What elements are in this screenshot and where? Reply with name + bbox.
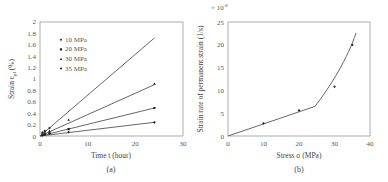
y-axis-a: 0 0.2 0.4 0.6 0.8 1 1.2 1.4 1.6 1.8 2 [27, 18, 36, 140]
svg-text:1: 1 [33, 75, 37, 83]
x-axis-b: 0 10 20 30 40 [226, 140, 374, 148]
y-axis-label-a: Strain εpl (%) [7, 59, 17, 99]
svg-text:0: 0 [38, 140, 42, 148]
svg-text:10: 10 [84, 140, 92, 148]
fit-line-10mpa [40, 122, 154, 136]
svg-text:40: 40 [367, 140, 375, 148]
svg-text:0.6: 0.6 [27, 98, 36, 106]
legend-item-20mpa: 20 MPa [65, 45, 88, 53]
legend-circle-icon [60, 67, 62, 69]
fit-line-35mpa [40, 38, 154, 136]
legend-square-icon [60, 48, 62, 50]
svg-text:30: 30 [180, 140, 188, 148]
y-axis-label-b: Strain rate of permanent strain (1/s) [196, 25, 205, 132]
legend-a: 10 MPa 20 MPa 30 MPa 35 MPa [60, 36, 88, 73]
svg-text:20: 20 [296, 140, 304, 148]
x-axis-a: 0 10 20 30 [38, 140, 187, 148]
svg-text:10: 10 [260, 140, 268, 148]
x-axis-label-b: Stress σ (MPa) [277, 151, 322, 160]
svg-text:0: 0 [33, 133, 37, 141]
svg-text:0.8: 0.8 [27, 87, 36, 95]
svg-text:5: 5 [221, 110, 225, 118]
legend-item-10mpa: 10 MPa [65, 36, 88, 44]
series-30mpa-markers [41, 82, 156, 133]
svg-text:0: 0 [226, 140, 230, 148]
fit-line-20mpa [40, 108, 154, 136]
y-multiplier: × 10-8 [211, 3, 228, 12]
svg-text:1.6: 1.6 [27, 41, 36, 49]
svg-text:10: 10 [217, 87, 225, 95]
svg-text:30: 30 [331, 140, 339, 148]
legend-item-30mpa: 30 MPa [65, 55, 88, 63]
chart-a: 0 0.2 0.4 0.6 0.8 1 1.2 1.4 1.6 1.8 2 0 … [7, 18, 187, 174]
svg-text:1.2: 1.2 [27, 64, 36, 72]
svg-text:0.4: 0.4 [27, 110, 36, 118]
legend-triangle-icon [60, 58, 62, 60]
svg-text:1.8: 1.8 [27, 30, 36, 38]
legend-diamond-icon [60, 39, 62, 41]
figure: 0 0.2 0.4 0.6 0.8 1 1.2 1.4 1.6 1.8 2 0 … [0, 0, 388, 182]
svg-text:1.4: 1.4 [27, 53, 36, 61]
caption-b: (b) [294, 165, 304, 174]
svg-text:0.2: 0.2 [27, 121, 36, 129]
svg-text:15: 15 [217, 64, 225, 72]
fit-line-30mpa [40, 85, 154, 136]
series-35mpa-markers [48, 127, 50, 129]
fit-lines-a [40, 38, 154, 136]
svg-text:2: 2 [33, 18, 37, 26]
plot-area-b [228, 22, 370, 136]
caption-a: (a) [107, 165, 116, 174]
svg-text:20: 20 [217, 41, 225, 49]
y-axis-b: 0 5 10 15 20 25 [217, 19, 225, 141]
legend-item-35mpa: 35 MPa [65, 65, 88, 73]
data-points-b [262, 43, 354, 124]
model-curve [228, 33, 356, 136]
svg-text:25: 25 [217, 19, 225, 27]
chart-b: × 10-8 0 5 10 15 20 25 0 10 20 30 40 Str… [196, 3, 374, 174]
svg-text:20: 20 [132, 140, 140, 148]
x-axis-label-a: Time t (hour) [91, 151, 132, 160]
point-30mpa [333, 85, 336, 88]
svg-text:0: 0 [221, 133, 225, 141]
